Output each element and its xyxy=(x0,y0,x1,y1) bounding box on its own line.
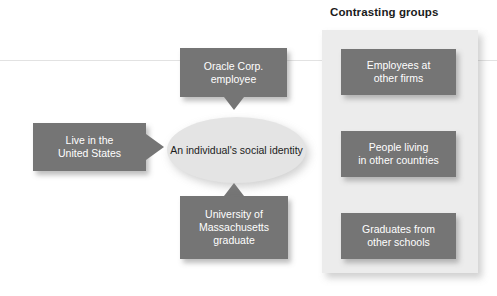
identity-box-oracle-employee: Oracle Corp. employee xyxy=(180,48,287,97)
contrast-box-employees-text: Employees at other firms xyxy=(367,59,431,85)
contrast-box-people-text: People living in other countries xyxy=(358,141,439,167)
contrast-box-people-line2: in other countries xyxy=(358,154,439,167)
contrast-box-employees-other-firms: Employees at other firms xyxy=(341,49,456,95)
diagram-canvas: Contrasting groups Employees at other fi… xyxy=(0,0,497,296)
arrow-tail-up-icon xyxy=(224,183,244,196)
identity-box-live-line1: Live in the xyxy=(58,134,121,147)
contrasting-groups-title: Contrasting groups xyxy=(330,6,497,18)
contrast-box-people-other-countries: People living in other countries xyxy=(341,131,456,177)
central-ellipse-text: An individual's social identity xyxy=(170,144,303,157)
contrast-box-people-line1: People living xyxy=(358,141,439,154)
contrast-box-graduates-other-schools: Graduates from other schools xyxy=(341,213,456,259)
identity-box-university-line1: University of xyxy=(199,208,269,221)
arrow-tail-right-icon xyxy=(146,134,164,160)
identity-box-oracle-line1: Oracle Corp. xyxy=(204,60,264,73)
arrow-tail-down-icon xyxy=(224,97,244,110)
identity-box-university-massachusetts: University of Massachusetts graduate xyxy=(180,196,288,259)
contrast-box-graduates-line1: Graduates from xyxy=(362,223,435,236)
identity-box-university-line3: graduate xyxy=(199,234,269,247)
identity-box-oracle-text: Oracle Corp. employee xyxy=(204,60,264,86)
central-ellipse-line1: An individual's xyxy=(170,144,237,156)
identity-box-live-united-states: Live in the United States xyxy=(33,123,146,171)
identity-box-oracle-line2: employee xyxy=(204,73,264,86)
contrast-box-employees-line2: other firms xyxy=(367,72,431,85)
central-ellipse-line2: social identity xyxy=(240,144,303,156)
contrast-box-employees-line1: Employees at xyxy=(367,59,431,72)
identity-box-university-line2: Massachusetts xyxy=(199,221,269,234)
identity-box-university-text: University of Massachusetts graduate xyxy=(199,208,269,247)
identity-box-live-line2: United States xyxy=(58,147,121,160)
central-ellipse-social-identity: An individual's social identity xyxy=(167,117,306,183)
contrast-box-graduates-text: Graduates from other schools xyxy=(362,223,435,249)
identity-box-live-text: Live in the United States xyxy=(58,134,121,160)
contrast-box-graduates-line2: other schools xyxy=(362,236,435,249)
